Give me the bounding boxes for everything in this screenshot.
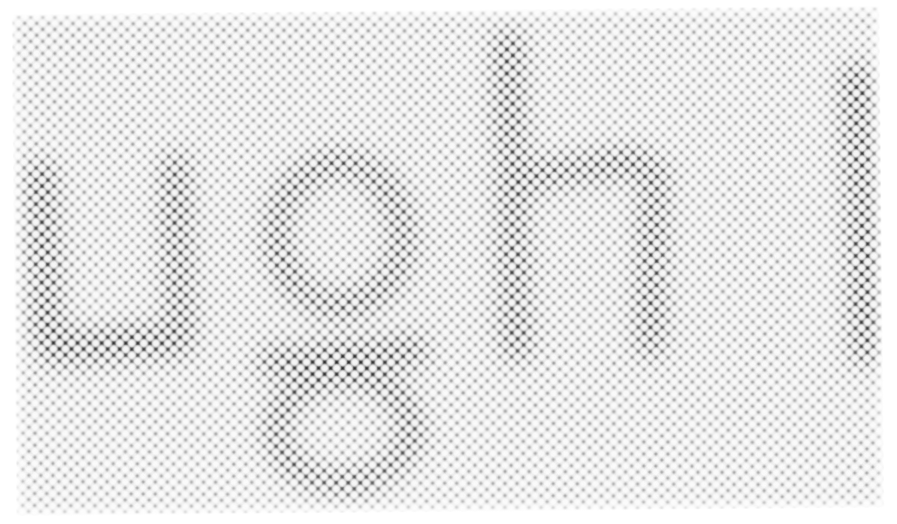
printed-paper-patch <box>12 6 885 516</box>
halftone-field <box>12 6 885 516</box>
letter-stroke-t-stem <box>840 64 883 365</box>
image-canvas: ight <box>0 0 897 524</box>
letter-stroke-h-shoulder <box>518 146 651 191</box>
letterform-ink-layer <box>12 6 885 516</box>
letter-stroke-g-bowl <box>260 148 419 323</box>
letter-stroke-h-ascender <box>493 31 532 362</box>
letter-stroke-i-stem-left <box>27 161 64 352</box>
letter-stroke-h-right-leg <box>636 158 667 358</box>
letter-stroke-i-stem-right <box>161 154 194 355</box>
letter-stroke-g-descender <box>261 360 427 499</box>
